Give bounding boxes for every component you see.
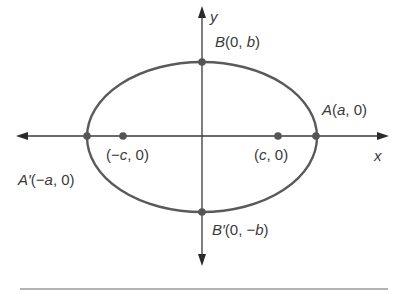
vertex-a-point	[312, 132, 320, 140]
vertex-a-prime-point	[83, 132, 91, 140]
label-focus-left: (−c, 0)	[106, 146, 149, 163]
label-a-prime: A′(−a, 0)	[17, 171, 75, 188]
y-axis-down-arrow	[198, 254, 206, 266]
label-focus-right: (c, 0)	[254, 146, 288, 163]
y-axis-up-arrow	[198, 6, 206, 18]
x-axis-label: x	[373, 147, 382, 164]
covertex-b-prime-point	[198, 208, 206, 216]
ellipse-diagram: y x B(0, b) A(a, 0) (−c, 0) (c, 0) A′(−a…	[0, 0, 395, 294]
x-axis-right-arrow	[377, 132, 389, 140]
y-axis-label: y	[209, 8, 219, 25]
label-a: A(a, 0)	[321, 101, 367, 118]
label-b-prime: B′(0, −b)	[212, 221, 269, 238]
label-b: B(0, b)	[215, 33, 260, 50]
x-axis-left-arrow	[16, 132, 28, 140]
focus-left-point	[119, 132, 127, 140]
focus-right-point	[274, 132, 282, 140]
covertex-b-point	[198, 58, 206, 66]
